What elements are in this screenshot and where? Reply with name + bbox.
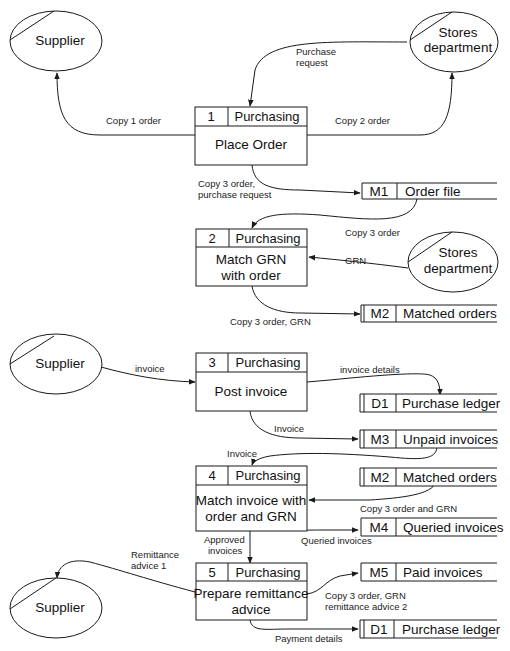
flow-invoice-details <box>307 374 440 395</box>
process-5-prepare-remittance: 5 Purchasing Prepare remittance advice <box>194 563 309 620</box>
process-name: Match invoice with <box>196 493 306 508</box>
process-1-place-order: 1 Purchasing Place Order <box>195 107 307 165</box>
flow-label: Copy 3 order <box>345 227 400 238</box>
flow-payment-details <box>250 620 358 629</box>
store-id: M5 <box>370 565 389 580</box>
entity-supplier: Supplier <box>10 578 102 638</box>
entity-label: Supplier <box>35 356 85 371</box>
flow-label: Copy 3 order, GRN <box>230 316 311 327</box>
flow-label: Queried invoices <box>301 535 372 546</box>
data-store-m2: M2 Matched orders <box>361 305 497 322</box>
flow-invoice-to-4 <box>252 447 437 465</box>
data-flow-diagram: Purchase request Copy 1 order Copy 2 ord… <box>0 0 510 651</box>
process-name: advice <box>231 602 270 617</box>
store-label: Matched orders <box>403 306 497 321</box>
flow-label: Invoice <box>274 423 304 434</box>
process-name: order and GRN <box>205 509 297 524</box>
flow-label: GRN <box>345 255 366 266</box>
flow-label: Purchase <box>296 46 336 57</box>
data-store-d1: D1 Purchase ledger <box>360 620 501 638</box>
entity-label: Supplier <box>35 33 85 48</box>
flow-label: request <box>296 57 328 68</box>
flow-label: remittance advice 2 <box>325 601 407 612</box>
store-label: Queried invoices <box>403 520 504 535</box>
data-store-m1: M1 Order file <box>362 183 497 199</box>
process-2-match-grn: 2 Purchasing Match GRN with order <box>196 229 307 286</box>
store-id: M3 <box>371 432 390 447</box>
store-label: Matched orders <box>403 470 497 485</box>
process-name: with order <box>220 268 281 283</box>
data-store-m5: M5 Paid invoices <box>361 563 497 581</box>
store-id: M2 <box>371 470 390 485</box>
entity-label: Stores <box>438 25 477 40</box>
process-owner: Purchasing <box>234 109 299 124</box>
store-label: Purchase ledger <box>402 622 501 637</box>
flow-label: Copy 3 order, GRN <box>325 590 406 601</box>
process-name: Match GRN <box>216 252 287 267</box>
store-label: Paid invoices <box>403 565 483 580</box>
entity-supplier: Supplier <box>10 11 102 71</box>
flow-label: Copy 3 order, <box>198 178 255 189</box>
data-store-m3: M3 Unpaid invoices <box>360 430 499 448</box>
process-4-match-invoice: 4 Purchasing Match invoice with order an… <box>196 466 307 531</box>
flow-label: invoice <box>135 363 165 374</box>
process-name: Prepare remittance <box>194 586 309 601</box>
entity-label: department <box>424 40 493 55</box>
store-id: M2 <box>371 306 390 321</box>
process-number: 3 <box>208 355 215 370</box>
process-3-post-invoice: 3 Purchasing Post invoice <box>196 353 307 411</box>
entity-label: Stores <box>438 245 477 260</box>
process-number: 1 <box>207 109 214 124</box>
process-owner: Purchasing <box>235 565 300 580</box>
flow-label: Payment details <box>275 633 343 644</box>
process-owner: Purchasing <box>235 231 300 246</box>
flow-copy3-order-grn <box>252 286 360 314</box>
flow-label: advice 1 <box>131 560 166 571</box>
data-store-d1: D1 Purchase ledger <box>360 394 501 412</box>
flow-label: Copy 2 order <box>335 115 390 126</box>
store-label: Purchase ledger <box>402 396 501 411</box>
flow-copy3-order-to-2 <box>252 199 417 228</box>
entity-stores-department: Stores department <box>410 12 498 72</box>
process-number: 5 <box>208 565 215 580</box>
store-id: M4 <box>370 520 389 535</box>
flow-label: Copy 1 order <box>106 115 161 126</box>
flow-label: Approved <box>204 534 245 545</box>
entity-label: Supplier <box>35 600 85 615</box>
flow-label: invoices <box>208 545 243 556</box>
store-id: D1 <box>370 622 387 637</box>
process-number: 4 <box>208 468 215 483</box>
flow-label: Copy 3 order and GRN <box>360 503 457 514</box>
flow-label: Remittance <box>131 549 179 560</box>
entity-label: department <box>424 261 493 276</box>
process-name: Post invoice <box>215 384 288 399</box>
flow-label: purchase request <box>198 189 272 200</box>
flow-label: Invoice <box>227 448 257 459</box>
store-label: Order file <box>405 184 461 199</box>
store-id: M1 <box>370 184 389 199</box>
data-store-m2: M2 Matched orders <box>360 468 497 486</box>
process-owner: Purchasing <box>235 355 300 370</box>
flow-label: invoice details <box>340 364 400 375</box>
entity-stores-department: Stores department <box>408 232 498 292</box>
entity-supplier: Supplier <box>10 334 102 394</box>
process-name: Place Order <box>215 137 288 152</box>
data-store-m4: M4 Queried invoices <box>361 518 504 536</box>
store-label: Unpaid invoices <box>403 432 499 447</box>
store-id: D1 <box>371 396 388 411</box>
process-owner: Purchasing <box>235 468 300 483</box>
process-number: 2 <box>208 231 215 246</box>
